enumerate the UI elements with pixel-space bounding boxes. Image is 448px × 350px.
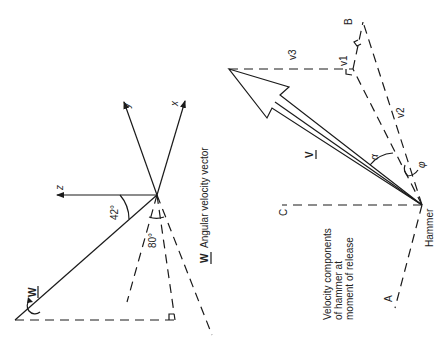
- angular-velocity-vector-line: [15, 195, 157, 320]
- angular-velocity-caption: Angular velocity vector: [199, 147, 210, 248]
- angle-80-label: 80°: [147, 233, 158, 248]
- point-c-label: C: [278, 209, 289, 216]
- caption-line-1: Velocity components: [322, 228, 333, 320]
- phi-label: φ: [416, 161, 427, 168]
- vertical-projection-dashed: [157, 195, 175, 320]
- y-axis-arrow: [124, 102, 157, 195]
- v-vector-label: V: [304, 151, 315, 158]
- v1-label: v1: [338, 55, 349, 66]
- caption-line-3: moment of release: [344, 237, 355, 320]
- z-axis-label: z: [54, 185, 65, 191]
- hammer-label: Hammer: [424, 208, 435, 247]
- hammer-a-dashed-line: [395, 205, 422, 308]
- w-vector-label: W: [27, 287, 38, 297]
- caption-w-symbol: W: [199, 253, 210, 263]
- angular-velocity-diagram: y x z 42° 80° W W Angular velocity vecto…: [15, 100, 212, 335]
- angle-42-label: 42°: [109, 205, 120, 220]
- caption-line-2: of hammer at: [333, 261, 344, 320]
- angle-arc-42: [120, 195, 129, 219]
- v3-label: v3: [287, 49, 298, 60]
- v2-projection-dashed-line: [353, 69, 422, 205]
- point-b-label: B: [343, 18, 354, 25]
- angle-arc-80: [149, 217, 164, 218]
- right-angle-marker-b: [354, 40, 361, 46]
- right-angle-marker: [169, 314, 174, 320]
- y-axis-label: y: [121, 102, 132, 109]
- x-axis-label: x: [169, 100, 180, 107]
- v2-dashed-line-b: [363, 22, 422, 205]
- v2-label: v2: [395, 107, 406, 118]
- alpha-label: α: [369, 154, 380, 160]
- point-a-label: A: [383, 295, 394, 302]
- right-angle-marker-v1: [346, 69, 352, 75]
- x-axis-arrow: [157, 101, 185, 195]
- diagram-canvas: y x z 42° 80° W W Angular velocity vecto…: [0, 0, 448, 350]
- velocity-components-diagram: v3 v1 v2 B C A Hammer α φ V Velocity com…: [229, 18, 435, 320]
